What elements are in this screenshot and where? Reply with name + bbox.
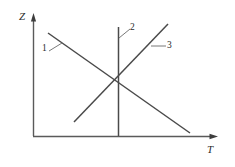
curve-2-leader (119, 29, 130, 38)
x-axis-label: T (207, 144, 213, 155)
curve-1-leader (49, 43, 62, 51)
curve-label-2: 2 (130, 23, 135, 33)
curve-label-3: 3 (167, 41, 172, 51)
zt-diagram-svg (0, 0, 235, 167)
y-axis-arrowhead (31, 13, 36, 22)
y-axis-label: Z (19, 11, 25, 22)
x-axis-arrowhead (210, 134, 219, 140)
figure-container: Z T 1 2 3 (0, 0, 235, 167)
curve-2-group (119, 27, 131, 136)
axes-group (31, 13, 218, 139)
curve-label-1: 1 (42, 44, 47, 54)
